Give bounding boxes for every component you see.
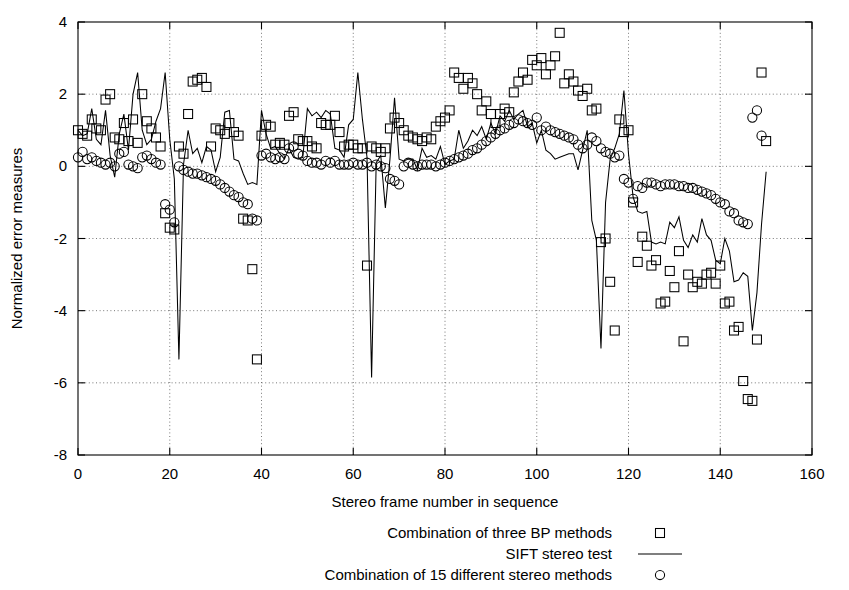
chart-root: 020406080100120140160 -8-6-4-2024 Stereo… [0, 0, 849, 590]
y-tick-label: -4 [54, 302, 67, 319]
y-tick-label: -8 [54, 446, 67, 463]
x-tick-label: 80 [437, 465, 454, 482]
legend-label: SIFT stereo test [506, 545, 613, 562]
chart-figure: 020406080100120140160 -8-6-4-2024 Stereo… [0, 0, 849, 590]
y-axis-title: Normalized error measures [8, 148, 25, 330]
x-tick-label: 140 [708, 465, 733, 482]
x-tick-label: 100 [524, 465, 549, 482]
y-tick-label: 2 [59, 85, 67, 102]
x-tick-label: 0 [74, 465, 82, 482]
legend-label: Combination of three BP methods [387, 524, 612, 541]
y-tick-label: -6 [54, 374, 67, 391]
x-tick-label: 20 [161, 465, 178, 482]
x-tick-label: 160 [799, 465, 824, 482]
y-tick-label: -2 [54, 230, 67, 247]
x-tick-label: 60 [345, 465, 362, 482]
legend-label: Combination of 15 different stereo metho… [325, 566, 612, 583]
x-tick-label: 40 [253, 465, 270, 482]
y-tick-label: 0 [59, 157, 67, 174]
x-tick-label: 120 [616, 465, 641, 482]
x-axis-title: Stereo frame number in sequence [332, 493, 559, 510]
y-tick-label: 4 [59, 13, 67, 30]
